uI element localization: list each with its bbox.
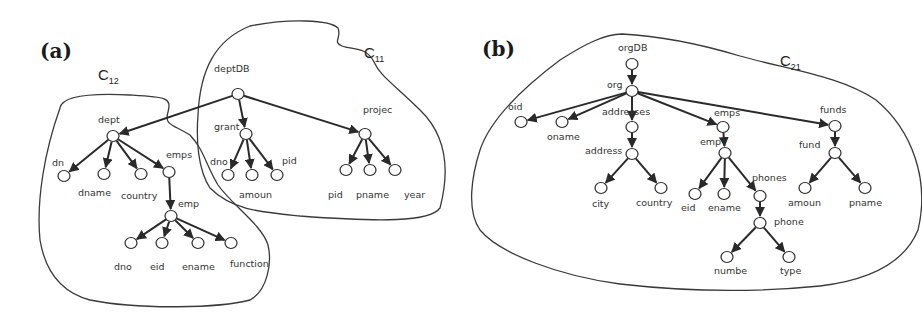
node-label-function: function: [230, 258, 269, 269]
node-addresses: [626, 122, 638, 133]
node-label-grant: grant: [214, 121, 240, 132]
node-country2: [655, 183, 667, 194]
node-label-emp2: emp: [700, 136, 721, 147]
cluster-label: C21: [780, 52, 801, 72]
cluster-outline-c21: [472, 34, 922, 290]
schema-tree-figure: (a)C12C11deptDBdeptdndnamecountryempsemp…: [0, 0, 922, 325]
node-label-country2: country: [636, 197, 673, 208]
node-label-eid1: eid: [150, 261, 165, 272]
node-amoun2: [799, 183, 811, 194]
node-label-emp: emp: [178, 198, 199, 209]
node-dno2: [222, 170, 234, 181]
node-label-pname2: pname: [849, 197, 882, 208]
node-eid2: [689, 189, 701, 200]
node-label-dept: dept: [98, 114, 120, 125]
panel-a: (a)C12C11deptDBdeptdndnamecountryempsemp…: [39, 21, 445, 307]
figure-svg: (a)C12C11deptDBdeptdndnamecountryempsemp…: [0, 0, 922, 325]
panel-label: (b): [482, 37, 515, 61]
node-numbe: [721, 252, 733, 263]
panel-b: (b)C21orgDBorgoidonameaddressesaddressci…: [472, 34, 922, 290]
node-ename2: [718, 189, 730, 200]
node-type: [783, 252, 795, 263]
node-pid1: [271, 170, 283, 181]
node-label-deptDB: deptDB: [214, 63, 249, 74]
node-label-dn: dn: [52, 157, 64, 168]
node-org: [626, 86, 638, 97]
edge-address-country2: [636, 159, 657, 183]
node-label-type: type: [780, 265, 801, 276]
node-label-numbe: numbe: [714, 265, 747, 276]
node-emp: [165, 211, 177, 222]
node-label-ename1: ename: [182, 261, 215, 272]
node-projec: [359, 129, 371, 140]
node-grant: [240, 129, 252, 140]
edge-emp-dno1: [137, 219, 166, 239]
node-label-pid1: pid: [282, 155, 297, 166]
panel-label: (a): [40, 39, 72, 63]
edge-phone-type: [764, 228, 785, 252]
edge-emp2-ename2: [724, 159, 725, 187]
edge-emps-emp: [169, 178, 170, 209]
node-label-ename2: ename: [708, 202, 741, 213]
edge-dept-dname: [106, 142, 112, 167]
node-label-emps2: emps: [714, 107, 740, 118]
edge-emps2-emp2: [723, 133, 724, 146]
node-phones: [754, 191, 766, 202]
node-fund: [829, 148, 841, 159]
node-funds: [829, 121, 841, 132]
node-emps: [163, 167, 175, 178]
node-label-city: city: [592, 198, 610, 209]
edge-projec-pname1: [366, 140, 369, 163]
node-label-oid: oid: [508, 101, 522, 112]
node-label-oname: oname: [547, 131, 580, 142]
node-address: [626, 149, 638, 160]
edge-grant-pid1: [250, 139, 273, 170]
edge-projec-year: [369, 139, 391, 165]
node-label-dno2: dno: [210, 156, 228, 167]
node-label-emps: emps: [166, 149, 192, 160]
node-pname2: [859, 183, 871, 194]
edge-dept-dn: [69, 140, 108, 172]
node-label-dname: dname: [78, 187, 111, 198]
node-emps2: [717, 122, 729, 133]
node-dname: [98, 169, 110, 180]
node-pid2: [340, 165, 352, 176]
cluster-label: C12: [98, 66, 119, 86]
node-label-pname1: pname: [356, 189, 389, 200]
node-oid: [515, 117, 527, 128]
node-oname: [556, 117, 568, 128]
edge-grant-dno2: [231, 139, 244, 168]
node-label-eid2: eid: [681, 202, 696, 213]
node-label-phones: phones: [752, 172, 787, 183]
node-city: [595, 183, 607, 194]
node-ename1: [192, 238, 204, 249]
node-label-projec: projec: [363, 104, 392, 115]
edge-emp2-eid2: [699, 158, 721, 189]
node-label-org: org: [607, 79, 623, 90]
node-function: [225, 238, 237, 249]
edge-address-city: [606, 158, 628, 182]
node-dno1: [125, 238, 137, 249]
node-label-addresses: addresses: [602, 106, 650, 117]
node-emp2: [719, 148, 731, 159]
cluster-label: C11: [364, 44, 384, 64]
edge-fund-pname2: [839, 158, 861, 183]
node-deptDB: [232, 89, 244, 100]
edge-fund-amoun2: [810, 158, 832, 183]
node-eid1: [156, 238, 168, 249]
node-dept: [107, 131, 119, 142]
node-label-phone: phone: [774, 216, 804, 227]
node-label-amoun2: amoun: [788, 197, 821, 208]
node-label-address: address: [585, 145, 622, 156]
node-label-dno1: dno: [114, 261, 132, 272]
node-label-amoun1: amoun: [239, 189, 272, 200]
edge-emp-eid1: [164, 222, 169, 237]
node-dn: [58, 171, 70, 182]
edge-dept-emps: [118, 139, 163, 168]
node-label-pid2: pid: [328, 189, 343, 200]
node-country: [135, 169, 147, 180]
node-label-year: year: [404, 189, 425, 200]
node-amoun1: [246, 170, 258, 181]
edge-projec-pid2: [349, 139, 362, 164]
edge-deptDB-projec: [244, 96, 359, 132]
